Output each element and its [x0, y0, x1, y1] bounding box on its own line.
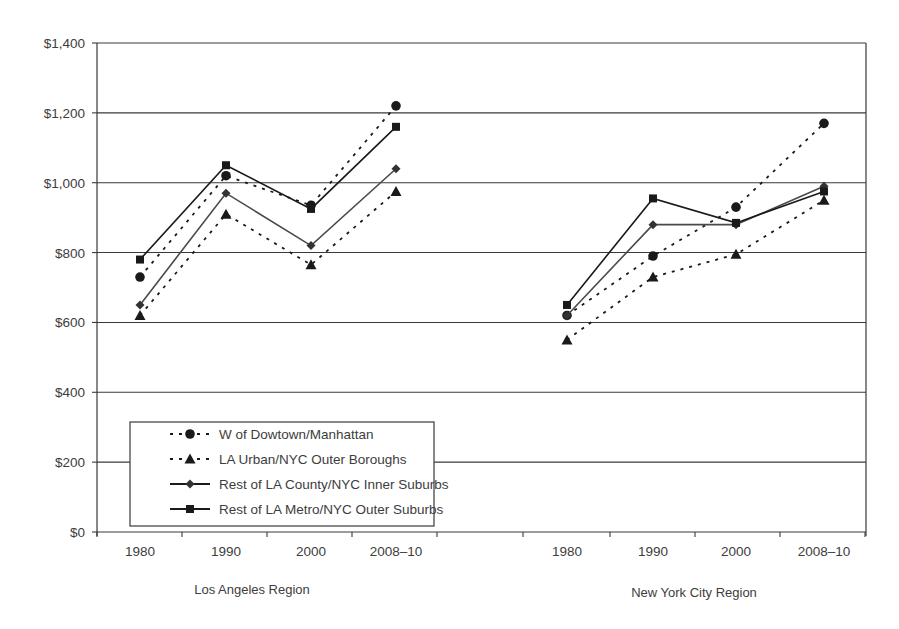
legend-label: Rest of LA County/NYC Inner Suburbs [219, 477, 449, 492]
square-marker [307, 205, 315, 213]
triangle-marker [391, 186, 402, 196]
x-axis-ticks: 1980199020002008–101980199020002008–10 [97, 532, 865, 559]
square-marker [136, 256, 144, 264]
x-tick-label: 1980 [552, 544, 582, 559]
square-marker [649, 194, 657, 202]
square-marker [563, 301, 571, 309]
circle-marker [221, 171, 231, 181]
series-diamond [563, 182, 829, 320]
triangle-marker [221, 209, 232, 219]
line-chart: $0$200$400$600$800$1,000$1,200$1,400 198… [0, 0, 899, 629]
series-circle [562, 119, 829, 321]
circle-marker [648, 251, 658, 261]
circle-marker [135, 272, 145, 282]
square-marker [820, 187, 828, 195]
series-square [563, 187, 828, 309]
y-tick-label: $400 [55, 385, 85, 400]
x-tick-label: 2008–10 [798, 544, 851, 559]
series-layer [135, 101, 830, 344]
square-marker [222, 161, 230, 169]
circle-marker [731, 202, 741, 212]
triangle-marker [562, 334, 573, 344]
series-circle [135, 101, 401, 282]
y-tick-label: $1,000 [44, 176, 85, 191]
circle-marker [185, 429, 195, 439]
square-marker [392, 123, 400, 131]
triangle-marker [135, 310, 146, 320]
region-label-la: Los Angeles Region [194, 582, 310, 597]
legend: W of Dowtown/ManhattanLA Urban/NYC Outer… [130, 422, 449, 526]
circle-marker [819, 119, 829, 129]
region-label-nyc: New York City Region [631, 585, 757, 600]
y-axis-ticks: $0$200$400$600$800$1,000$1,200$1,400 [44, 36, 97, 540]
legend-label: W of Dowtown/Manhattan [219, 427, 374, 442]
y-tick-label: $600 [55, 315, 85, 330]
y-tick-label: $800 [55, 246, 85, 261]
legend-label: LA Urban/NYC Outer Boroughs [219, 452, 407, 467]
x-tick-label: 2008–10 [370, 544, 423, 559]
square-marker [732, 219, 740, 227]
triangle-marker [306, 259, 317, 269]
y-tick-label: $1,200 [44, 106, 85, 121]
x-tick-label: 1990 [211, 544, 241, 559]
square-marker [186, 505, 194, 513]
x-tick-label: 1980 [125, 544, 155, 559]
legend-label: Rest of LA Metro/NYC Outer Suburbs [219, 502, 444, 517]
y-tick-label: $0 [70, 525, 85, 540]
circle-marker [391, 101, 401, 111]
y-tick-label: $1,400 [44, 36, 85, 51]
x-tick-label: 2000 [721, 544, 751, 559]
y-tick-label: $200 [55, 455, 85, 470]
triangle-marker [819, 195, 830, 205]
triangle-marker [731, 249, 742, 259]
x-tick-label: 1990 [638, 544, 668, 559]
series-square [136, 123, 400, 264]
x-tick-label: 2000 [296, 544, 326, 559]
